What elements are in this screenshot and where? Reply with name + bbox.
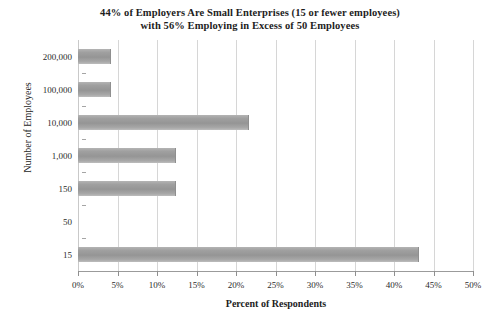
x-tick-label: 25% bbox=[256, 280, 296, 290]
chart-title-line-2: with 56% Employing in Excess of 50 Emplo… bbox=[60, 19, 440, 32]
chart-title: 44% of Employers Are Small Enterprises (… bbox=[60, 6, 440, 32]
y-tick-label: 15 bbox=[12, 250, 72, 260]
gridline-50 bbox=[473, 40, 474, 271]
y-tick-label: 200,000 bbox=[12, 52, 72, 62]
x-tick-label: 40% bbox=[374, 280, 414, 290]
x-tick-label: 30% bbox=[295, 280, 335, 290]
y-tick-label: 1,000 bbox=[12, 151, 72, 161]
x-tick-mark bbox=[394, 271, 395, 276]
x-tick-mark bbox=[276, 271, 277, 276]
bar-row bbox=[78, 73, 473, 106]
bar-15 bbox=[78, 247, 419, 262]
bar-row bbox=[78, 205, 473, 238]
x-tick-label: 50% bbox=[453, 280, 493, 290]
plot-area bbox=[78, 40, 473, 271]
bar-100000 bbox=[78, 82, 111, 97]
bar-row bbox=[78, 106, 473, 139]
x-tick-label: 45% bbox=[414, 280, 454, 290]
bar-row bbox=[78, 172, 473, 205]
x-tick-mark bbox=[236, 271, 237, 276]
x-tick-label: 35% bbox=[335, 280, 375, 290]
bar-1000 bbox=[78, 148, 176, 163]
bar-10000 bbox=[78, 115, 249, 130]
x-tick-mark bbox=[118, 271, 119, 276]
x-tick-mark bbox=[315, 271, 316, 276]
bar-chart: 44% of Employers Are Small Enterprises (… bbox=[0, 0, 497, 325]
bar-row bbox=[78, 238, 473, 271]
bar-row bbox=[78, 139, 473, 172]
x-tick-label: 10% bbox=[137, 280, 177, 290]
x-tick-mark bbox=[434, 271, 435, 276]
x-tick-label: 5% bbox=[98, 280, 138, 290]
bar-150 bbox=[78, 181, 176, 196]
bar-200000 bbox=[78, 49, 111, 64]
y-tick-label: 50 bbox=[12, 217, 72, 227]
x-tick-mark bbox=[197, 271, 198, 276]
y-tick-label: 10,000 bbox=[12, 118, 72, 128]
x-tick-mark bbox=[355, 271, 356, 276]
y-axis-tick-labels: 200,000100,00010,0001,0001505015 bbox=[8, 40, 72, 271]
bars-layer bbox=[78, 40, 473, 271]
x-tick-label: 0% bbox=[58, 280, 98, 290]
chart-title-line-1: 44% of Employers Are Small Enterprises (… bbox=[100, 7, 400, 18]
x-tick-mark bbox=[78, 271, 79, 276]
x-tick-mark bbox=[473, 271, 474, 276]
y-tick-label: 150 bbox=[12, 184, 72, 194]
x-tick-mark bbox=[157, 271, 158, 276]
y-tick-label: 100,000 bbox=[12, 85, 72, 95]
bar-row bbox=[78, 40, 473, 73]
x-tick-label: 15% bbox=[177, 280, 217, 290]
x-tick-label: 20% bbox=[216, 280, 256, 290]
x-axis-title: Percent of Respondents bbox=[78, 298, 474, 309]
